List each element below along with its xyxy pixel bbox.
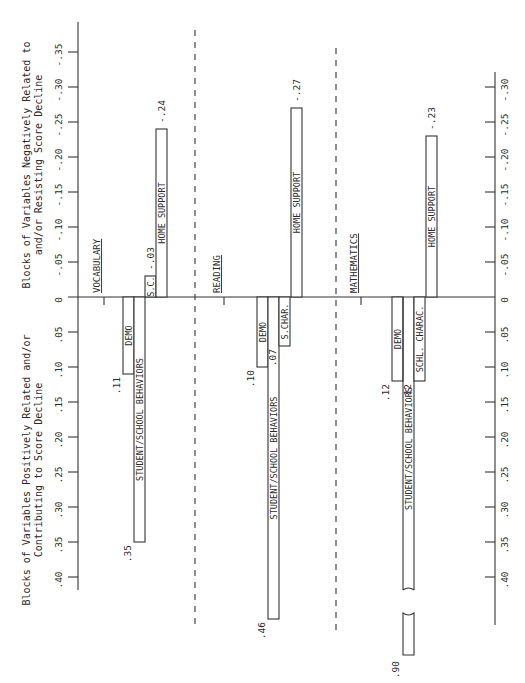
titles: Blocks of Variables Negatively Related t…	[21, 42, 44, 606]
bar-value-label: .12	[402, 384, 413, 401]
bar-demo: DEMO.10	[245, 297, 268, 387]
bar-label: S.C.	[146, 276, 156, 296]
chart: Blocks of Variables Negatively Related t…	[0, 0, 525, 683]
left-axis-tick-label: -.30	[53, 78, 64, 101]
right-axis-tick-label: .35	[499, 536, 510, 553]
title-positive-line-1: Blocks of Variables Positively Related a…	[21, 335, 32, 606]
right-axis-tick-label: .25	[499, 466, 510, 483]
left-axis-tick-label: -.10	[53, 218, 64, 241]
bar-label: STUDENT/SCHOOL BEHAVIORS	[269, 397, 279, 520]
right-axis-tick-label: -.25	[499, 114, 510, 137]
left-axis-tick-label: -.35	[53, 44, 64, 67]
left-axis-tick-label: .35	[53, 536, 64, 553]
bar-label: STUDENT/SCHOOL BEHAVIORS	[135, 358, 145, 481]
right-axis-tick-label: -.05	[499, 254, 510, 277]
bar-value-label: .46	[256, 622, 267, 639]
right-axis-tick-label: .20	[499, 431, 510, 448]
bar-label: DEMO	[258, 322, 268, 342]
right-axis-tick-label: .10	[499, 361, 510, 378]
bar-label: DEMO	[393, 329, 403, 349]
bar-value-label: .10	[245, 370, 256, 387]
bar-label: HOME SUPPORT	[427, 186, 437, 247]
left-axis-tick-label: -.25	[53, 114, 64, 137]
bar-label: STUDENT/SCHOOL BEHAVIORS	[404, 387, 414, 510]
bar-home-support: HOME SUPPORT-.23	[426, 107, 438, 297]
bar-value-label: -.24	[156, 100, 167, 123]
left-axis-tick-label: .20	[53, 431, 64, 448]
left-axis-tick-label: .15	[53, 396, 64, 413]
left-axis-tick-label: .10	[53, 361, 64, 378]
bar-demo: DEMO.11	[111, 297, 134, 394]
title-positive-line-2: Contributing to Score Decline	[33, 383, 44, 558]
bar-label: S.CHAR.	[280, 304, 290, 340]
left-axis-tick-label: .05	[53, 326, 64, 343]
bar-groups: VOCABULARYDEMO.11STUDENT/SCHOOL BEHAVIOR…	[92, 79, 437, 678]
group-label: VOCABULARY	[92, 238, 102, 293]
group-reading: READINGDEMO.10STUDENT/SCHOOL BEHAVIORS.4…	[212, 79, 302, 639]
bar-demo: DEMO.12	[380, 297, 403, 401]
bar-break-mark	[403, 588, 414, 590]
bar-value-label: -.03	[145, 247, 156, 270]
left-axis-tick-label: .40	[53, 571, 64, 588]
bar-label: SCHL. CHARAC.	[415, 306, 425, 373]
bar-segment-end	[403, 613, 414, 655]
bar-value-label: .90	[390, 661, 401, 678]
bar-value-label: .12	[380, 384, 391, 401]
title-negative-line-2: and/or Resisting Score Decline	[33, 75, 44, 256]
left-axis-tick-label: 0	[53, 297, 64, 303]
bar-label: HOME SUPPORT	[157, 182, 167, 243]
right-axis-tick-label: 0	[499, 297, 510, 303]
title-negative-line-1: Blocks of Variables Negatively Related t…	[21, 42, 32, 289]
right-axis-tick-label: -.10	[499, 218, 510, 241]
right-axis-tick-label: -.30	[499, 78, 510, 101]
left-axis-tick-label: -.05	[53, 254, 64, 277]
left-axis-tick-label: -.20	[53, 148, 64, 171]
bar-value-label: -.23	[426, 107, 437, 130]
group-label: READING	[212, 255, 222, 293]
bar-label: DEMO	[124, 325, 134, 345]
group-vocabulary: VOCABULARYDEMO.11STUDENT/SCHOOL BEHAVIOR…	[92, 100, 167, 562]
right-axis-tick-label: -.15	[499, 184, 510, 207]
left-axis-tick-label: .30	[53, 501, 64, 518]
right-axis-tick-label: .15	[499, 396, 510, 413]
bar-s-c: S.C.-.03	[145, 247, 157, 297]
bar-label: HOME SUPPORT	[292, 172, 302, 233]
bar-value-label: -.27	[291, 79, 302, 102]
right-axis-tick-label: .40	[499, 571, 510, 588]
bar-value-label: .35	[122, 545, 133, 562]
group-label: MATHEMATICS	[349, 233, 359, 293]
bar-value-label: .07	[267, 349, 278, 366]
right-axis-tick-label: -.20	[499, 148, 510, 171]
bar-value-label: .11	[111, 377, 122, 394]
right-axis-tick-label: .05	[499, 326, 510, 343]
group-mathematics: MATHEMATICSDEMO.12STUDENT/SCHOOL BEHAVIO…	[349, 107, 437, 678]
bar-home-support: HOME SUPPORT-.24	[156, 100, 168, 297]
left-axis-tick-label: .25	[53, 466, 64, 483]
left-axis-tick-label: -.15	[53, 184, 64, 207]
bar-home-support: HOME SUPPORT-.27	[291, 79, 303, 297]
right-axis-tick-label: .30	[499, 501, 510, 518]
